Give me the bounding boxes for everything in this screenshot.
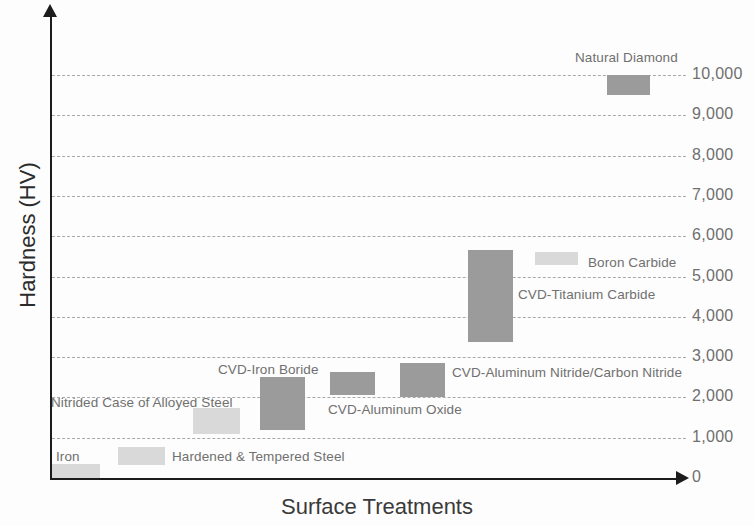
- gridline: [52, 75, 686, 76]
- y-axis-tick-label: 9,000: [692, 105, 752, 123]
- bar: [193, 408, 240, 434]
- y-axis-line: [50, 14, 52, 479]
- gridline: [52, 115, 686, 116]
- x-axis-title: Surface Treatments: [0, 494, 754, 520]
- gridline: [52, 196, 686, 197]
- gridline: [52, 438, 686, 439]
- gridline: [52, 156, 686, 157]
- y-axis-tick-label: 0: [692, 468, 752, 486]
- y-axis-tick-label: 5,000: [692, 267, 752, 285]
- bar: [260, 377, 305, 430]
- x-axis-line: [50, 478, 678, 480]
- gridline: [52, 236, 686, 237]
- bar: [535, 252, 578, 265]
- bar-label: Iron: [56, 449, 80, 464]
- bar-label: Nitrided Case of Alloyed Steel: [51, 395, 233, 410]
- y-axis-tick-label: 3,000: [692, 347, 752, 365]
- gridline: [52, 317, 686, 318]
- bar-label: CVD-Iron Boride: [218, 362, 319, 377]
- bar: [330, 372, 375, 395]
- bar-label: CVD-Titanium Carbide: [518, 287, 655, 302]
- bar-label: Boron Carbide: [588, 255, 676, 270]
- y-axis-arrow-icon: [43, 4, 57, 17]
- y-axis-tick-label: 7,000: [692, 186, 752, 204]
- bar-label: Natural Diamond: [575, 50, 678, 65]
- bar-label: CVD-Aluminum Oxide: [328, 402, 462, 417]
- y-axis-tick-label: 10,000: [692, 65, 752, 83]
- bar: [468, 250, 513, 342]
- bar: [607, 75, 650, 95]
- gridline: [52, 277, 686, 278]
- bar: [52, 464, 100, 478]
- plot-area: IronHardened & Tempered SteelNitrided Ca…: [0, 0, 754, 526]
- hardness-bar-chart: IronHardened & Tempered SteelNitrided Ca…: [0, 0, 754, 526]
- bar: [118, 447, 165, 465]
- y-axis-tick-label: 2,000: [692, 387, 752, 405]
- bar: [400, 363, 445, 397]
- bar-label: Hardened & Tempered Steel: [172, 449, 345, 464]
- y-axis-tick-label: 1,000: [692, 428, 752, 446]
- y-axis-tick-label: 8,000: [692, 146, 752, 164]
- y-axis-tick-label: 6,000: [692, 226, 752, 244]
- x-axis-arrow-icon: [676, 471, 689, 485]
- y-axis-tick-label: 4,000: [692, 307, 752, 325]
- y-axis-title: Hardness (HV): [15, 115, 41, 355]
- bar-label: CVD-Aluminum Nitride/Carbon Nitride: [452, 365, 682, 380]
- gridline: [52, 357, 686, 358]
